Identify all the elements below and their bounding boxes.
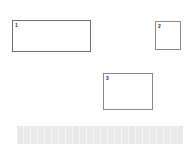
annotation-box-3[interactable]: 3 <box>103 73 153 110</box>
annotation-box-2[interactable]: 2 <box>155 21 181 50</box>
annotation-box-1-label: 1 <box>15 22 18 28</box>
annotation-box-3-label: 3 <box>106 75 109 81</box>
annotation-box-2-label: 2 <box>158 23 161 29</box>
bottom-status-band <box>17 126 183 144</box>
annotation-canvas: 1 2 3 <box>0 0 192 144</box>
annotation-box-1[interactable]: 1 <box>12 20 91 52</box>
band-stripe-texture <box>17 126 183 144</box>
